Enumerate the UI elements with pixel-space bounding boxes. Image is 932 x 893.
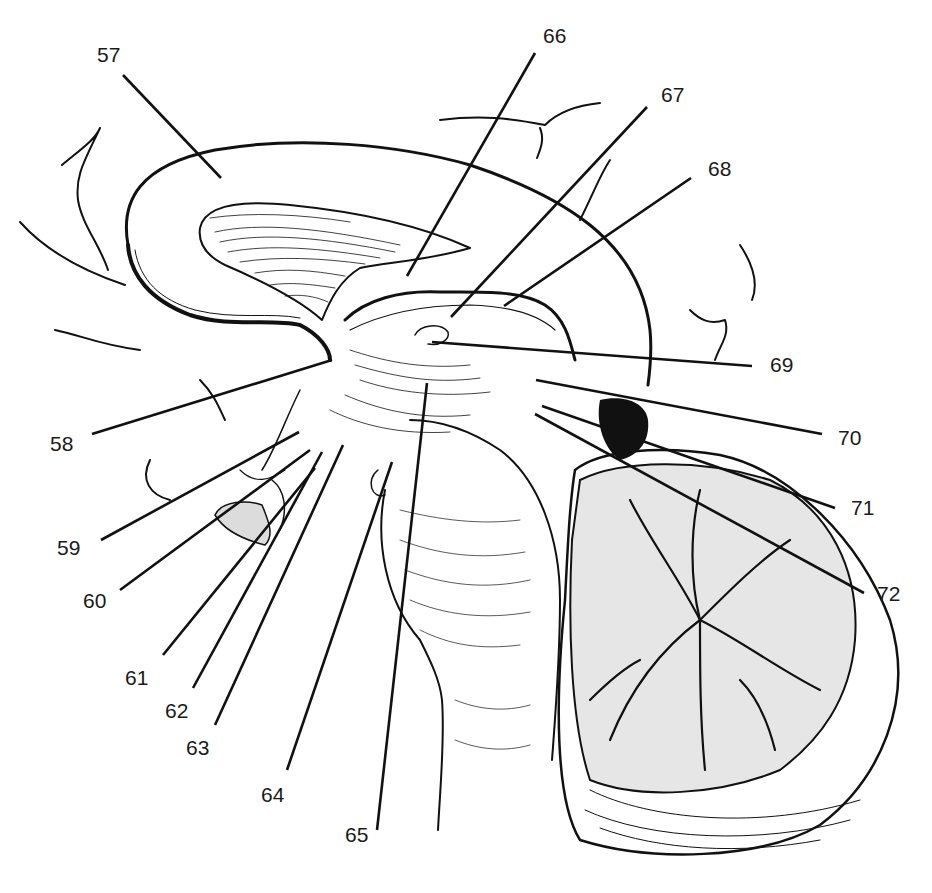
leader-lines [0, 0, 932, 893]
anatomy-figure: 57 58 59 60 61 62 63 64 65 66 67 68 69 7… [0, 0, 932, 893]
label-67: 67 [661, 84, 684, 105]
leader-line-70 [536, 380, 822, 434]
label-63: 63 [186, 737, 209, 758]
label-61: 61 [125, 667, 148, 688]
label-68: 68 [708, 158, 731, 179]
label-62: 62 [165, 700, 188, 721]
label-65: 65 [345, 824, 368, 845]
label-57: 57 [97, 44, 120, 65]
leader-line-65 [377, 383, 427, 830]
leader-line-72 [535, 414, 864, 593]
leader-line-58 [92, 360, 332, 434]
label-72: 72 [877, 583, 900, 604]
leader-line-60 [120, 450, 310, 590]
leader-line-66 [407, 53, 535, 276]
label-70: 70 [838, 427, 861, 448]
label-66: 66 [543, 25, 566, 46]
leader-line-67 [451, 107, 647, 317]
label-69: 69 [770, 354, 793, 375]
leader-line-71 [542, 406, 835, 508]
leader-line-63 [215, 445, 343, 725]
leader-line-64 [287, 462, 392, 770]
leader-line-57 [123, 75, 221, 178]
leader-line-69 [432, 342, 752, 366]
label-59: 59 [57, 537, 80, 558]
leader-line-61 [163, 468, 315, 655]
leader-line-68 [504, 178, 691, 306]
label-60: 60 [83, 590, 106, 611]
label-58: 58 [50, 433, 73, 454]
label-71: 71 [851, 497, 874, 518]
label-64: 64 [261, 784, 284, 805]
